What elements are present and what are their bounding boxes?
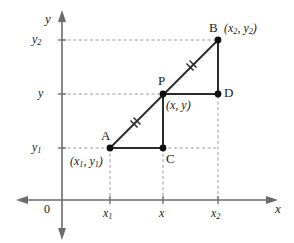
coord-label-P: (x, y) [166, 99, 191, 111]
y-tick-label-y1: y1 [32, 141, 41, 155]
y-axis-arrow-down [58, 228, 66, 240]
point-label-A: A [101, 129, 110, 142]
point-label-B: B [209, 21, 218, 34]
y-axis-arrow-up [58, 10, 66, 22]
point-label-C: C [166, 152, 175, 165]
x-axis-label: x [275, 202, 281, 215]
origin-label: 0 [44, 203, 50, 215]
point-D [215, 91, 222, 98]
x-tick-label-x2: x2 [211, 207, 220, 221]
y-tick-label-y2: y2 [32, 33, 41, 47]
x-tick-label-x: x [159, 207, 164, 219]
point-label-P: P [158, 74, 165, 87]
y-axis-label: y [45, 12, 51, 25]
point-label-D: D [224, 86, 233, 99]
point-A [107, 145, 114, 152]
axes [16, 10, 278, 240]
coordinate-geometry-figure: y x 0 y2 y y1 x1 x x2 A B P C D (x1, y1)… [0, 0, 294, 243]
coord-label-A: (x1, y1) [70, 155, 103, 169]
x-tick-label-x1: x1 [103, 207, 112, 221]
y-tick-label-y: y [38, 87, 43, 99]
point-P [160, 91, 167, 98]
point-B [215, 37, 222, 44]
coord-label-B: (x2, y2) [224, 22, 257, 36]
x-axis-arrow-left [16, 196, 28, 204]
